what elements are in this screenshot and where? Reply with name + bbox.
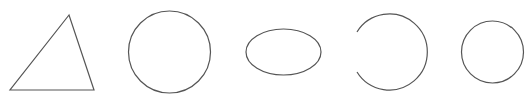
open-arc-shape [357,14,427,90]
ellipse-shape [246,29,321,75]
shapes-canvas [0,0,532,97]
large-circle-shape [129,11,211,93]
small-circle-shape [462,21,524,83]
triangle-shape [10,15,94,90]
